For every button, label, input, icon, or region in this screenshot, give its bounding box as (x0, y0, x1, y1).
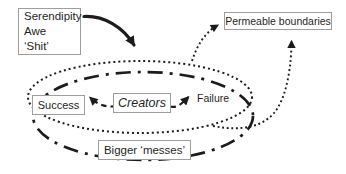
serendipity-line: Serendipity (24, 9, 82, 24)
failure-label: Failure (197, 92, 229, 104)
bigger-messes-label: Bigger ‘messes’ (104, 144, 185, 156)
bigger-messes-box: Bigger ‘messes’ (98, 140, 191, 160)
permeable-boundaries-box: Permeable boundaries (224, 12, 332, 30)
serendipity-input-arrow (84, 16, 134, 45)
awe-line: Awe (24, 24, 46, 39)
permeable-boundaries-label: Permeable boundaries (225, 15, 331, 27)
diagram-canvas: Serendipity Awe ‘Shit’ Permeable boundar… (0, 0, 346, 174)
serendipity-awe-shit-box: Serendipity Awe ‘Shit’ (18, 8, 81, 55)
shit-line: ‘Shit’ (24, 39, 49, 54)
boundary-label-arrow-upper (192, 25, 218, 61)
success-box: Success (32, 95, 85, 115)
success-label: Success (38, 99, 80, 111)
creators-to-failure-arrow (171, 97, 189, 107)
creators-label: Creators (118, 96, 166, 110)
creators-box: Creators (113, 93, 171, 113)
